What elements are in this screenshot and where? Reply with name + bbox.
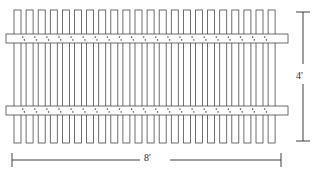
fence-picket [50,10,57,143]
fastener-mark [96,111,97,112]
fence-picket [171,10,178,143]
fastener-mark [204,108,205,109]
fastener-mark [167,36,168,37]
fastener-mark [217,111,218,112]
fence-picket [208,10,215,143]
fastener-mark [22,36,23,37]
fastener-mark [228,36,229,37]
fastener-mark [192,36,193,37]
fastener-mark [181,111,182,112]
fastener-mark [46,36,47,37]
fence-elevation-drawing [0,0,319,178]
fastener-mark [230,111,231,112]
fastener-mark [240,36,241,37]
fastener-mark [83,36,84,37]
fence-picket [232,10,239,143]
fastener-mark [167,108,168,109]
fastener-mark [83,108,84,109]
fastener-mark [254,39,255,40]
fastener-mark [217,39,218,40]
height-dimension-label: 4' [296,71,303,81]
fastener-mark [72,39,73,40]
fence-panel-diagram: 4' 8' [0,0,319,178]
fastener-mark [119,108,120,109]
fastener-mark [193,111,194,112]
fastener-mark [242,111,243,112]
fastener-mark [155,36,156,37]
fastener-mark [143,108,144,109]
fence-picket [147,10,154,143]
fence-picket [123,10,130,143]
fence-picket [256,10,263,143]
fastener-mark [157,111,158,112]
fastener-mark [133,111,134,112]
fence-picket [159,10,166,143]
fastener-mark [230,39,231,40]
fastener-mark [264,36,265,37]
fastener-mark [60,111,61,112]
fastener-mark [204,36,205,37]
fastener-mark [48,111,49,112]
fence-picket [183,10,190,143]
fastener-mark [109,111,110,112]
fence-picket [196,10,203,143]
fastener-mark [133,39,134,40]
fastener-mark [48,39,49,40]
fastener-mark [169,111,170,112]
fastener-mark [193,39,194,40]
fastener-mark [96,39,97,40]
fastener-mark [205,39,206,40]
fastener-mark [169,39,170,40]
fastener-mark [240,108,241,109]
fastener-mark [252,36,253,37]
fence-picket [87,10,94,143]
fastener-mark [143,36,144,37]
fastener-mark [107,108,108,109]
fastener-mark [71,36,72,37]
picket-group [14,10,275,143]
fence-picket [99,10,106,143]
fastener-mark [179,36,180,37]
fastener-mark [264,108,265,109]
fastener-mark [205,111,206,112]
fastener-mark [34,36,35,37]
fastener-mark [58,108,59,109]
fence-rail [6,106,288,115]
fastener-mark [266,39,267,40]
fastener-mark [216,108,217,109]
fastener-mark [58,36,59,37]
fastener-mark [95,36,96,37]
fastener-mark [145,39,146,40]
fastener-mark [84,39,85,40]
fastener-mark [72,111,73,112]
fastener-mark [181,39,182,40]
fastener-mark [228,108,229,109]
fastener-mark [121,111,122,112]
fence-picket [135,10,142,143]
fastener-mark [254,111,255,112]
fence-picket [244,10,251,143]
fence-picket [220,10,227,143]
fastener-marks-group [22,36,267,112]
fastener-mark [95,108,96,109]
fence-picket [38,10,45,143]
fence-picket [14,10,21,143]
fastener-mark [71,108,72,109]
fastener-mark [107,36,108,37]
fastener-mark [22,108,23,109]
fastener-mark [157,39,158,40]
fastener-mark [34,108,35,109]
fastener-mark [46,108,47,109]
width-dimension-label: 8' [144,153,151,163]
fastener-mark [84,111,85,112]
fastener-mark [119,36,120,37]
fastener-mark [155,108,156,109]
fastener-mark [24,39,25,40]
fence-picket [26,10,33,143]
fastener-mark [109,39,110,40]
fastener-mark [36,111,37,112]
fastener-mark [242,39,243,40]
fastener-mark [36,39,37,40]
fence-picket [75,10,82,143]
fastener-mark [131,36,132,37]
